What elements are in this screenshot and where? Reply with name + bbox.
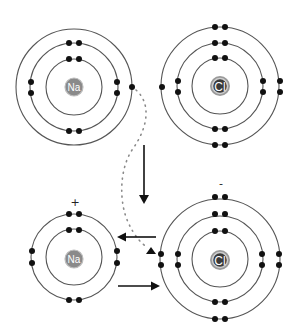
arrow-right-icon: [151, 282, 160, 291]
sodium-atom: Na: [16, 29, 135, 145]
valence-electron: [129, 84, 135, 90]
ionic-bond-diagram: Na Cl: [0, 0, 301, 336]
cl-symbol: Cl: [214, 80, 225, 94]
chloride-ion: - Cl: [158, 177, 282, 323]
attraction-arrow-left: [117, 233, 156, 242]
attraction-arrow-right: [118, 282, 160, 291]
na-ion-symbol: Na: [68, 254, 81, 265]
na-ion-charge: +: [70, 196, 79, 209]
arrow-left-icon: [117, 233, 126, 242]
chlorine-atom: Cl: [159, 24, 283, 148]
reaction-arrow: [139, 145, 149, 204]
transfer-arrowhead-icon: [146, 247, 156, 254]
cl-ion-charge: -: [219, 177, 223, 190]
cl-ion-symbol: Cl: [214, 254, 225, 268]
sodium-ion: + Na: [29, 196, 120, 304]
na-symbol: Na: [68, 82, 81, 93]
arrow-down-icon: [139, 195, 149, 204]
